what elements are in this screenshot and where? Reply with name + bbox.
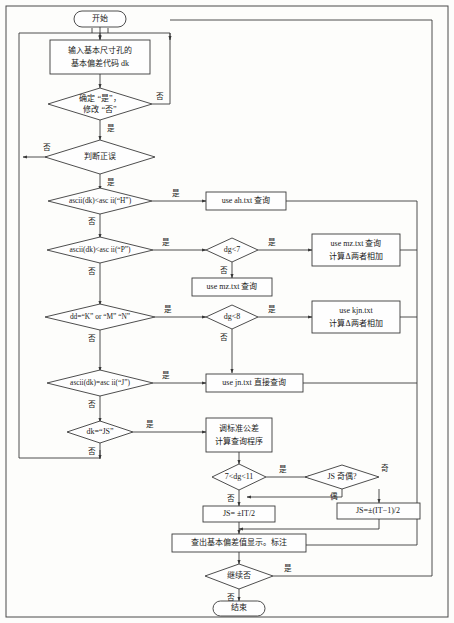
node-confirm: 确定 “是”， 修改 “否” [48, 88, 152, 120]
node-decision-dg-range-label: 7<dg<11 [225, 472, 254, 481]
node-end-label: 结束 [231, 602, 247, 612]
edge-label-dkmn-no: 否 [88, 334, 96, 343]
node-input: 输入基本尺寸孔的 基本偏差代码 dk [50, 40, 150, 74]
flowchart-page: 开始 输入基本尺寸孔的 基本偏差代码 dk 确定 “是”， 修改 “否” 否 是… [0, 0, 454, 623]
node-decision-dg-lt-8-label: dg<8 [224, 312, 241, 321]
node-decision-js-parity: JS 奇偶? [305, 465, 379, 489]
node-js-it-half: JS= ±IT/2 [203, 506, 275, 522]
node-use-mz-txt-delta: use mz.txt 查询 计算Δ两者相加 [312, 234, 400, 266]
edge-label-validate-yes: 是 [107, 178, 115, 187]
edge-label-dh-yes: 是 [172, 189, 180, 198]
edge-label-confirm-no: 否 [156, 92, 164, 101]
node-use-mz-txt: use mz.txt 查询 [192, 278, 272, 296]
edge-label-parity-odd: 奇 [381, 463, 389, 473]
node-decision-dg-lt-7-label: dg<7 [224, 245, 241, 254]
node-validate: 判断正误 [45, 140, 155, 174]
edge-label-dg8-no: 否 [220, 333, 228, 342]
edge-label-dg7-yes: 是 [268, 238, 276, 247]
node-use-kjn-txt-line1: use kjn.txt [339, 306, 373, 315]
node-show-result-label: 查出基本偏差值显示。标注 [191, 537, 287, 547]
edge-label-dg8-yes: 是 [268, 305, 276, 314]
edge-label-dj-yes: 是 [162, 371, 170, 380]
node-use-jn-txt-label: use jn.txt 直接查询 [222, 377, 285, 387]
node-use-mz-txt-label: use mz.txt 查询 [207, 281, 258, 291]
edge-label-dp-yes: 是 [162, 238, 170, 247]
node-decision-ascii-h: ascii(dk)<asc ii(“H”) [48, 188, 152, 214]
node-decision-continue-label: 继续否 [227, 570, 251, 580]
node-decision-dd-kmn-label: dd=“K” or “M” “N” [70, 312, 130, 321]
node-validate-label: 判断正误 [84, 151, 116, 161]
node-input-line2: 基本偏差代码 dk [71, 58, 129, 68]
edge-label-dgrange-yes: 是 [279, 465, 287, 474]
edge-label-cont-no: 否 [227, 593, 235, 602]
node-decision-ascii-p: ascii(dk)<asc ii(“P”) [47, 237, 153, 263]
node-decision-ascii-p-label: ascii(dk)<asc ii(“P”) [69, 245, 131, 254]
node-decision-dg-lt-7: dg<7 [206, 238, 258, 262]
node-js-it-minus-one-half-label: JS=±(IT−1)/2 [356, 506, 400, 515]
node-confirm-line1: 确定 “是”， [79, 93, 120, 103]
edge-label-djs-no: 否 [88, 447, 96, 456]
edge-label-parity-even: 偶 [330, 491, 338, 501]
node-show-result: 查出基本偏差值显示。标注 [172, 534, 306, 552]
node-decision-ascii-h-label: ascii(dk)<asc ii(“H”) [69, 196, 132, 205]
edge-label-confirm-yes: 是 [107, 124, 115, 133]
edge-label-dj-no: 否 [88, 400, 96, 409]
edge-label-cont-yes: 是 [284, 564, 292, 573]
node-decision-dg-lt-8: dg<8 [206, 305, 258, 329]
node-std-tolerance-line2: 计算查询程序 [215, 436, 263, 446]
node-use-ah-txt: use ah.txt 查询 [206, 192, 286, 210]
node-use-ah-txt-label: use ah.txt 查询 [222, 195, 271, 205]
node-start-label: 开始 [92, 13, 108, 23]
node-decision-ascii-j-label: ascii(dk)=asc ii(“J”) [70, 378, 130, 387]
node-use-kjn-txt: use kjn.txt 计算Δ两者相加 [312, 301, 400, 333]
edge-label-dgrange-no: 否 [227, 494, 235, 503]
node-decision-ascii-j: ascii(dk)=asc ii(“J”) [47, 370, 153, 396]
node-use-jn-txt: use jn.txt 直接查询 [206, 374, 303, 392]
node-end: 结束 [213, 601, 265, 616]
node-std-tolerance: 调标准公差 计算查询程序 [206, 418, 272, 452]
flowchart-canvas: 开始 输入基本尺寸孔的 基本偏差代码 dk 确定 “是”， 修改 “否” 否 是… [0, 0, 454, 623]
node-start: 开始 [74, 11, 126, 27]
node-use-mz-txt-delta-line2: 计算Δ两者相加 [329, 251, 382, 261]
edge-label-dp-no: 否 [88, 267, 96, 276]
edge-label-dh-no: 否 [88, 217, 96, 226]
node-confirm-line2: 修改 “否” [83, 104, 117, 114]
node-decision-dg-range: 7<dg<11 [212, 464, 266, 490]
node-use-mz-txt-delta-line1: use mz.txt 查询 [331, 238, 382, 248]
node-js-it-half-label: JS= ±IT/2 [223, 509, 255, 518]
node-decision-continue: 继续否 [205, 564, 273, 589]
node-js-it-minus-one-half: JS=±(IT−1)/2 [337, 503, 420, 519]
edge-label-dkmn-yes: 是 [164, 305, 172, 314]
node-decision-dk-js: dk=“JS” [67, 421, 133, 443]
node-std-tolerance-line1: 调标准公差 [219, 423, 259, 433]
node-decision-dk-js-label: dk=“JS” [86, 427, 114, 436]
edge-label-djs-yes: 是 [146, 420, 154, 429]
node-use-kjn-txt-line2: 计算Δ两者相加 [329, 318, 382, 328]
edge-label-dg7-no: 否 [220, 266, 228, 275]
node-decision-js-parity-label: JS 奇偶? [327, 471, 357, 481]
edge-label-validate-no: 否 [43, 143, 51, 152]
node-decision-dd-kmn: dd=“K” or “M” “N” [45, 304, 155, 330]
node-input-line1: 输入基本尺寸孔的 [68, 45, 132, 55]
